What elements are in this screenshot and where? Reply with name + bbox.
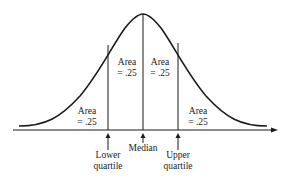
area-label: Area bbox=[183, 106, 213, 117]
area-left-tail: Area = .25 bbox=[72, 106, 102, 127]
area-lower-median: Area = .25 bbox=[112, 57, 142, 78]
area-right-tail: Area = .25 bbox=[183, 106, 213, 127]
marker-line2: quartile bbox=[158, 161, 198, 172]
lower-quartile-arrow-icon bbox=[106, 133, 111, 150]
marker-line1: Lower bbox=[88, 150, 128, 161]
marker-line1: Upper bbox=[158, 150, 198, 161]
area-label: Area bbox=[112, 57, 142, 68]
area-label: Area bbox=[145, 57, 175, 68]
area-label: Area bbox=[72, 106, 102, 117]
x-axis-arrow-icon bbox=[271, 128, 278, 133]
marker-line1: Median bbox=[123, 143, 163, 154]
upper-quartile-arrow-icon bbox=[176, 133, 181, 150]
area-value: = .25 bbox=[145, 68, 175, 79]
marker-line2: quartile bbox=[88, 161, 128, 172]
area-value: = .25 bbox=[72, 117, 102, 128]
lower-quartile-label: Lower quartile bbox=[88, 150, 128, 171]
median-label: Median bbox=[123, 143, 163, 154]
area-median-upper: Area = .25 bbox=[145, 57, 175, 78]
upper-quartile-label: Upper quartile bbox=[158, 150, 198, 171]
median-arrow-icon bbox=[141, 133, 146, 143]
area-value: = .25 bbox=[183, 117, 213, 128]
area-value: = .25 bbox=[112, 68, 142, 79]
distribution-diagram bbox=[0, 0, 287, 187]
